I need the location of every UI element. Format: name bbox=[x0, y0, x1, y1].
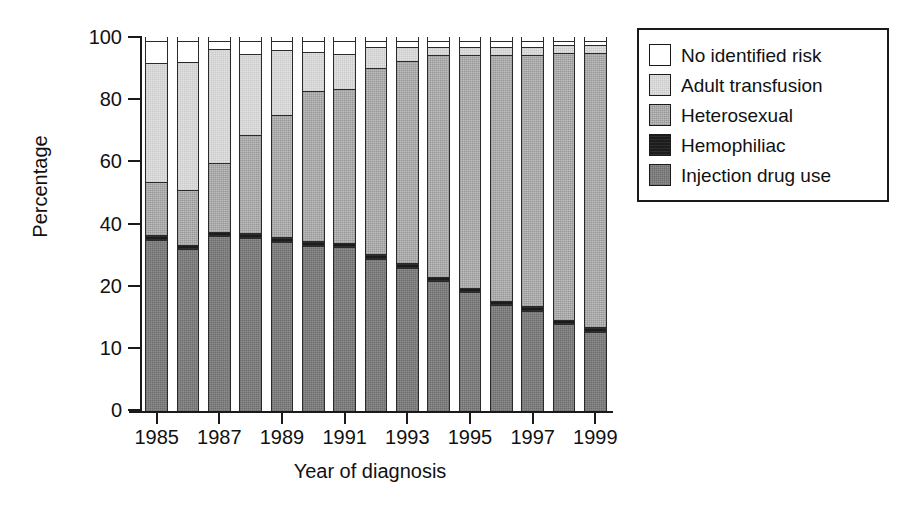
bar-segment bbox=[146, 182, 167, 236]
bar-segment bbox=[240, 135, 261, 234]
bar-segment bbox=[522, 311, 543, 412]
bar-segment bbox=[272, 50, 293, 115]
bar-segment bbox=[334, 54, 355, 90]
bar-segment bbox=[522, 55, 543, 307]
legend-item-hemophiliac[interactable]: Hemophiliac bbox=[649, 130, 875, 160]
bar-segment bbox=[272, 242, 293, 412]
legend-swatch-icon bbox=[649, 44, 671, 66]
bar-segment bbox=[585, 53, 606, 328]
legend-label: Hemophiliac bbox=[681, 136, 786, 155]
bar-segment bbox=[272, 41, 293, 50]
bar-segment bbox=[272, 115, 293, 238]
bar-segment bbox=[178, 62, 199, 191]
bar-segment bbox=[240, 54, 261, 136]
legend-swatch-icon bbox=[649, 74, 671, 96]
legend: No identified riskAdult transfusionHeter… bbox=[637, 28, 889, 202]
bar-segment bbox=[491, 305, 512, 412]
bar-segment bbox=[460, 292, 481, 412]
legend-label: Adult transfusion bbox=[681, 76, 823, 95]
bar-segment bbox=[146, 240, 167, 412]
bar-segment bbox=[334, 41, 355, 54]
bar-segment bbox=[240, 41, 261, 54]
bar-segment bbox=[428, 281, 449, 412]
legend-swatch-icon bbox=[649, 164, 671, 186]
bar-1985[interactable] bbox=[145, 37, 168, 411]
bar-segment bbox=[209, 41, 230, 48]
x-tick-mark bbox=[218, 413, 220, 424]
legend-item-injection-drug-use[interactable]: Injection drug use bbox=[649, 160, 875, 190]
bar-segment bbox=[585, 332, 606, 412]
bar-1992[interactable] bbox=[365, 37, 388, 411]
bar-segment bbox=[303, 91, 324, 242]
bar-segment bbox=[178, 190, 199, 246]
bar-segment bbox=[366, 47, 387, 69]
bar-1995[interactable] bbox=[459, 37, 482, 411]
legend-label: No identified risk bbox=[681, 46, 821, 65]
x-tick-mark bbox=[344, 413, 346, 424]
bar-segment bbox=[334, 247, 355, 412]
x-tick-mark bbox=[532, 413, 534, 424]
legend-swatch-icon bbox=[649, 134, 671, 156]
legend-item-no-identified-risk[interactable]: No identified risk bbox=[649, 40, 875, 70]
x-tick-mark bbox=[406, 413, 408, 424]
bar-segment bbox=[428, 55, 449, 278]
bar-segment bbox=[240, 238, 261, 412]
x-tick-mark bbox=[156, 413, 158, 424]
bar-segment bbox=[178, 41, 199, 62]
bar-segment bbox=[397, 268, 418, 412]
bar-segment bbox=[460, 55, 481, 289]
x-axis-title: Year of diagnosis bbox=[180, 460, 560, 483]
bar-segment bbox=[209, 163, 230, 232]
bar-segment bbox=[146, 41, 167, 63]
legend-label: Injection drug use bbox=[681, 166, 831, 185]
x-tick-mark bbox=[594, 413, 596, 424]
bar-segment bbox=[178, 249, 199, 412]
bar-segment bbox=[209, 236, 230, 412]
x-tick-mark bbox=[281, 413, 283, 424]
bar-1993[interactable] bbox=[396, 37, 419, 411]
bar-segment bbox=[366, 259, 387, 412]
bar-1990[interactable] bbox=[302, 37, 325, 411]
bar-1997[interactable] bbox=[521, 37, 544, 411]
bar-segment bbox=[397, 47, 418, 62]
x-tick-label: 1999 bbox=[555, 426, 635, 449]
x-tick-mark bbox=[469, 413, 471, 424]
bar-1988[interactable] bbox=[239, 37, 262, 411]
legend-item-adult-transfusion[interactable]: Adult transfusion bbox=[649, 70, 875, 100]
bar-segment bbox=[554, 53, 575, 320]
bar-1991[interactable] bbox=[333, 37, 356, 411]
bar-1996[interactable] bbox=[490, 37, 513, 411]
x-axis-line bbox=[129, 411, 613, 413]
bar-1989[interactable] bbox=[271, 37, 294, 411]
bar-segment bbox=[491, 55, 512, 302]
bar-1987[interactable] bbox=[208, 37, 231, 411]
bar-segment bbox=[334, 89, 355, 244]
bar-segment bbox=[554, 324, 575, 412]
legend-item-heterosexual[interactable]: Heterosexual bbox=[649, 100, 875, 130]
bar-segment bbox=[303, 52, 324, 91]
bar-1986[interactable] bbox=[177, 37, 200, 411]
bar-1999[interactable] bbox=[584, 37, 607, 411]
bar-segment bbox=[303, 246, 324, 412]
bar-segment bbox=[303, 41, 324, 52]
legend-label: Heterosexual bbox=[681, 106, 793, 125]
bar-segment bbox=[146, 63, 167, 183]
bar-segment bbox=[366, 68, 387, 255]
legend-swatch-icon bbox=[649, 104, 671, 126]
bar-segment bbox=[209, 49, 230, 165]
chart-root: Percentage 10080604020100 19851987198919… bbox=[0, 0, 911, 519]
bar-1994[interactable] bbox=[427, 37, 450, 411]
bar-segment bbox=[397, 61, 418, 265]
bar-1998[interactable] bbox=[553, 37, 576, 411]
